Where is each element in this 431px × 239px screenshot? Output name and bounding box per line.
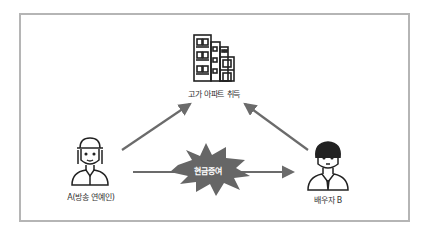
person-b-label: 배우자 B [314, 194, 342, 205]
building-label: 고가 아파트 취득 [188, 88, 240, 99]
person-a-label: A(방송 연예인) [67, 191, 114, 202]
arrow-a-to-building [122, 104, 190, 150]
man-in-suit-icon [308, 142, 348, 190]
arrow-b-to-building [245, 104, 308, 150]
apartment-building-icon [194, 35, 234, 81]
woman-with-cap-icon [72, 138, 108, 185]
arrows-layer [0, 0, 431, 239]
edge-label-cash-gift: 현금증여 [194, 165, 222, 176]
